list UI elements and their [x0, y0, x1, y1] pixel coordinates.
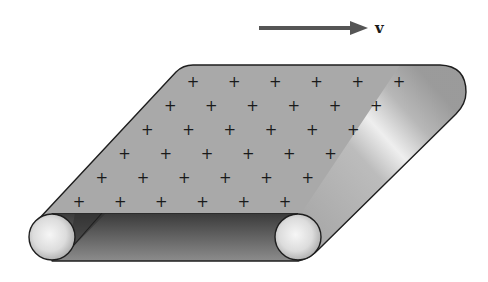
positive-charge: + [246, 97, 259, 115]
positive-charge: + [196, 193, 209, 211]
positive-charge: + [329, 97, 342, 115]
positive-charge: + [347, 121, 360, 139]
positive-charge: + [228, 73, 241, 91]
positive-charge: + [96, 169, 109, 187]
positive-charge: + [302, 169, 315, 187]
positive-charge: + [224, 121, 237, 139]
positive-charge: + [324, 145, 337, 163]
positive-charge: + [242, 145, 255, 163]
positive-charge: + [310, 73, 323, 91]
positive-charge: + [265, 121, 278, 139]
right-roller [275, 214, 321, 260]
positive-charge: + [283, 145, 296, 163]
positive-charge: + [141, 121, 154, 139]
positive-charge: + [352, 73, 365, 91]
positive-charge: + [370, 97, 383, 115]
velocity-arrow [259, 21, 368, 35]
positive-charge: + [279, 193, 292, 211]
positive-charge: + [118, 145, 131, 163]
positive-charge: + [137, 169, 150, 187]
positive-charge: + [393, 73, 406, 91]
positive-charge: + [269, 73, 282, 91]
positive-charge: + [288, 97, 301, 115]
positive-charge: + [201, 145, 214, 163]
positive-charge: + [164, 97, 177, 115]
positive-charge: + [306, 121, 319, 139]
positive-charge: + [187, 73, 200, 91]
positive-charge: + [160, 145, 173, 163]
positive-charge: + [155, 193, 168, 211]
left-roller [29, 214, 75, 260]
positive-charge: + [219, 169, 232, 187]
positive-charge: + [182, 121, 195, 139]
positive-charge: + [260, 169, 273, 187]
positive-charge: + [238, 193, 251, 211]
velocity-arrow-head [350, 21, 368, 35]
positive-charge: + [178, 169, 191, 187]
positive-charge: + [205, 97, 218, 115]
positive-charge: + [114, 193, 127, 211]
velocity-label: v [374, 19, 385, 37]
conveyor-belt-diagram: ++++++++++++++++++++++++++++++++++++ v [0, 0, 488, 282]
positive-charge: + [73, 193, 86, 211]
